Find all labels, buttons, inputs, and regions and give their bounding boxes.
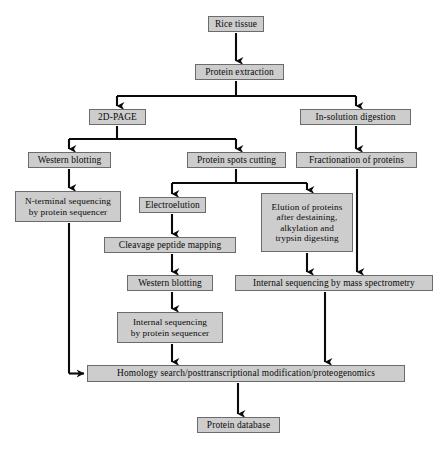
- node-western-blotting-lower: Western blotting: [127, 275, 213, 291]
- node-protein-extraction: Protein extraction: [195, 64, 284, 80]
- node-rice-tissue: Rice tissue: [208, 16, 264, 32]
- node-2d-page: 2D-PAGE: [89, 109, 146, 125]
- node-n-terminal-sequencing: N-terminal sequencing by protein sequenc…: [15, 191, 121, 222]
- node-protein-spots-cutting: Protein spots cutting: [187, 152, 286, 168]
- node-cleavage-peptide-mapping: Cleavage peptide mapping: [104, 237, 236, 253]
- node-elution-of-proteins: Elution of proteins after destaining, al…: [261, 193, 353, 252]
- node-internal-sequencing-protein-sequencer: Internal sequencing by protein sequencer: [117, 312, 223, 343]
- node-fractionation-of-proteins: Fractionation of proteins: [296, 152, 417, 168]
- flowchart-diagram: Rice tissue Protein extraction 2D-PAGE I…: [0, 0, 446, 451]
- node-protein-database: Protein database: [197, 417, 280, 433]
- node-in-solution-digestion: In-solution digestion: [300, 109, 411, 125]
- node-internal-sequencing-mass-spec: Internal sequencing by mass spectrometry: [235, 275, 433, 291]
- node-homology-search: Homology search/posttranscriptional modi…: [87, 365, 405, 382]
- node-western-blotting-upper: Western blotting: [28, 152, 111, 168]
- node-electroelution: Electroelution: [139, 197, 206, 213]
